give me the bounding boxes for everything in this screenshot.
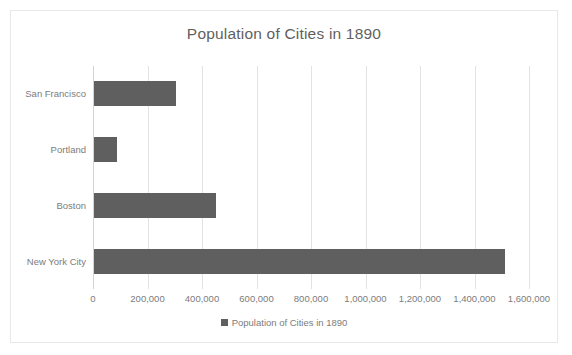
category-axis-label: Portland xyxy=(51,144,86,155)
category-axis-label: San Francisco xyxy=(25,88,86,99)
value-axis-tick-label: 600,000 xyxy=(239,293,273,304)
legend-swatch-icon xyxy=(221,319,228,326)
bar[interactable] xyxy=(94,249,505,274)
legend-label: Population of Cities in 1890 xyxy=(232,317,348,328)
bar-row: San Francisco xyxy=(93,66,529,122)
value-axis-tick-label: 200,000 xyxy=(130,293,164,304)
category-axis-label: Boston xyxy=(56,200,86,211)
value-axis-tick-label: 1,200,000 xyxy=(399,293,441,304)
bar[interactable] xyxy=(94,137,117,162)
value-axis-tick-label: 0 xyxy=(90,293,95,304)
bar-row: Boston xyxy=(93,178,529,234)
value-axis-tick-label: 400,000 xyxy=(185,293,219,304)
chart-title: Population of Cities in 1890 xyxy=(11,25,557,43)
gridline xyxy=(529,66,530,289)
value-axis-tick-label: 1,000,000 xyxy=(344,293,386,304)
bar-row: New York City xyxy=(93,233,529,289)
bar[interactable] xyxy=(94,81,176,106)
value-axis-tick-label: 1,600,000 xyxy=(508,293,550,304)
value-axis-tick-label: 1,400,000 xyxy=(453,293,495,304)
chart-legend: Population of Cities in 1890 xyxy=(11,317,557,328)
bar-row: Portland xyxy=(93,122,529,178)
chart-frame: Population of Cities in 1890 New York Ci… xyxy=(10,10,558,343)
bar[interactable] xyxy=(94,193,216,218)
category-axis-label: New York City xyxy=(27,256,86,267)
plot-area: New York CityBostonPortlandSan Francisco xyxy=(93,66,529,289)
value-axis-tick-label: 800,000 xyxy=(294,293,328,304)
